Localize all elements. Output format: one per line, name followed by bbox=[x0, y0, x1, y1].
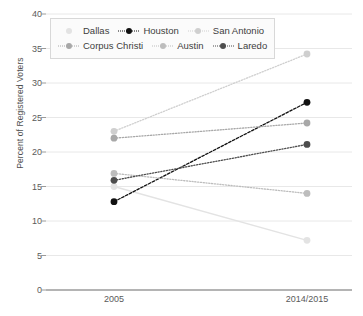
legend-label: Austin bbox=[177, 41, 203, 51]
data-point-3-0 bbox=[111, 135, 118, 142]
legend-marker-icon bbox=[58, 26, 79, 36]
legend-row: DallasHoustonSan Antonio bbox=[58, 23, 267, 38]
legend-marker-icon bbox=[152, 41, 173, 51]
data-point-1-0 bbox=[111, 198, 118, 205]
legend-row: Corpus ChristiAustinLaredo bbox=[58, 38, 267, 53]
series-line-0 bbox=[114, 187, 307, 241]
legend-dot-icon bbox=[66, 28, 72, 34]
legend-item-corpus-christi[interactable]: Corpus Christi bbox=[58, 41, 143, 51]
legend-label: Corpus Christi bbox=[83, 41, 143, 51]
legend-dot-icon bbox=[220, 43, 226, 49]
legend-item-houston[interactable]: Houston bbox=[118, 26, 178, 36]
series-laredo bbox=[111, 141, 311, 184]
legend-dot-icon bbox=[66, 43, 72, 49]
series-line-3 bbox=[114, 123, 307, 138]
data-point-2-0 bbox=[111, 128, 118, 135]
legend-dot-icon bbox=[160, 43, 166, 49]
data-point-2-1 bbox=[304, 51, 311, 58]
data-point-0-0 bbox=[111, 183, 118, 190]
series-line-2 bbox=[114, 54, 307, 131]
data-point-1-1 bbox=[304, 99, 311, 106]
legend-item-san-antonio[interactable]: San Antonio bbox=[188, 26, 264, 36]
legend-item-dallas[interactable]: Dallas bbox=[58, 26, 109, 36]
legend-label: Dallas bbox=[83, 26, 109, 36]
data-point-4-0 bbox=[111, 170, 118, 177]
series-line-4 bbox=[114, 173, 307, 193]
data-point-5-1 bbox=[304, 141, 311, 148]
series-dallas bbox=[111, 183, 311, 244]
legend-label: Houston bbox=[143, 26, 178, 36]
legend-marker-icon bbox=[188, 26, 209, 36]
legend-item-laredo[interactable]: Laredo bbox=[213, 41, 268, 51]
series-line-5 bbox=[114, 144, 307, 180]
legend-label: Laredo bbox=[238, 41, 268, 51]
series-corpus-christi bbox=[111, 120, 311, 142]
series-san-antonio bbox=[111, 51, 311, 135]
legend-marker-icon bbox=[118, 26, 139, 36]
data-point-0-1 bbox=[304, 237, 311, 244]
legend-label: San Antonio bbox=[213, 26, 264, 36]
data-point-3-1 bbox=[304, 120, 311, 127]
legend-marker-icon bbox=[213, 41, 234, 51]
legend-dot-icon bbox=[195, 28, 201, 34]
legend-item-austin[interactable]: Austin bbox=[152, 41, 203, 51]
data-point-4-1 bbox=[304, 190, 311, 197]
data-point-5-0 bbox=[111, 177, 118, 184]
legend-marker-icon bbox=[58, 41, 79, 51]
legend-dot-icon bbox=[126, 28, 132, 34]
series-austin bbox=[111, 170, 311, 197]
chart-legend[interactable]: DallasHoustonSan Antonio Corpus ChristiA… bbox=[50, 18, 275, 59]
line-chart: Percent of Registered Voters 05101520253… bbox=[0, 0, 363, 316]
